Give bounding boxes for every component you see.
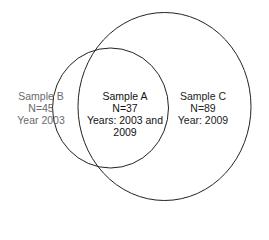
sample-a-label: Sample A N=37 Years: 2003 and 2009 <box>80 90 170 138</box>
sample-c-title: Sample C <box>172 90 234 102</box>
sample-b-title: Sample B <box>10 90 72 102</box>
sample-c-year: Year: 2009 <box>172 114 234 126</box>
sample-a-year-line2: 2009 <box>80 126 170 138</box>
sample-a-n: N=37 <box>80 102 170 114</box>
sample-b-label: Sample B N=45 Year 2003 <box>10 90 72 126</box>
sample-c-n: N=89 <box>172 102 234 114</box>
sample-b-year: Year 2003 <box>10 114 72 126</box>
sample-c-label: Sample C N=89 Year: 2009 <box>172 90 234 126</box>
sample-b-n: N=45 <box>10 102 72 114</box>
sample-a-title: Sample A <box>80 90 170 102</box>
sample-a-year-line1: Years: 2003 and <box>80 114 170 126</box>
